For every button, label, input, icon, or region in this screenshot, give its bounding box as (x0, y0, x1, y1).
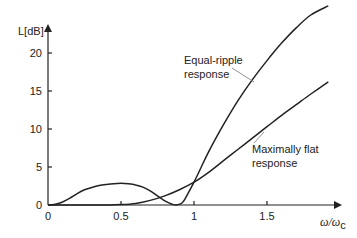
annotation-equal-ripple-line1: Equal-ripple (184, 54, 243, 66)
x-tick-label: 1 (191, 210, 197, 222)
series-equal-ripple-line (48, 6, 328, 205)
annotation-maximally-flat-line2: response (252, 157, 297, 169)
annotation-equal-ripple-line2: response (184, 68, 229, 80)
line-chart: L[dB] ω/ωc 00.511.505101520 Equal-ripple… (0, 0, 357, 238)
y-tick-label: 5 (36, 161, 42, 173)
x-axis-label-sub: c (340, 219, 346, 231)
x-axis-label-main: ω/ω (320, 215, 340, 229)
y-axis-label: L[dB] (18, 25, 44, 37)
y-tick-label: 0 (36, 199, 42, 211)
x-tick-label: 0 (45, 210, 51, 222)
annotation-equal-ripple-leader (232, 68, 254, 82)
y-tick-label: 20 (30, 47, 42, 59)
annotation-maximally-flat-line1: Maximally flat (252, 143, 319, 155)
x-axis-label: ω/ωc (320, 215, 346, 231)
x-tick-label: 1.5 (259, 210, 274, 222)
x-tick-label: 0.5 (113, 210, 128, 222)
y-tick-label: 10 (30, 123, 42, 135)
y-tick-label: 15 (30, 85, 42, 97)
